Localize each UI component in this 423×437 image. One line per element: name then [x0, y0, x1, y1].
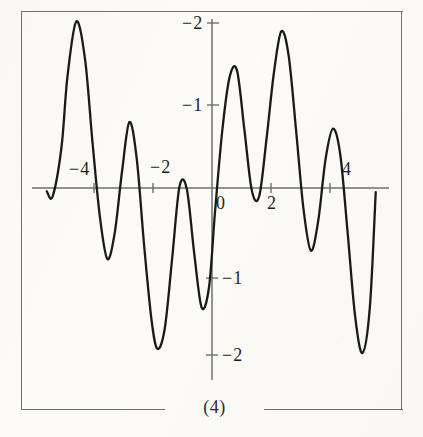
- y-axis-label-2: 2: [182, 14, 202, 32]
- y-axis-label--2: 2: [222, 346, 242, 364]
- y-axis-label-1: 1: [182, 96, 202, 114]
- y-axis-label--1: 1: [222, 269, 242, 287]
- x-axis-label-4: 4: [342, 160, 351, 178]
- x-axis-label--2: 2: [150, 158, 170, 176]
- x-axis-label-2: 2: [267, 194, 276, 212]
- x-axis-label--4: 4: [69, 160, 89, 178]
- figure-page: (4) 4 2 0 2 4 2 1 1 2: [0, 0, 423, 437]
- x-axis-label-0: 0: [216, 194, 225, 212]
- plot-canvas: [0, 0, 423, 437]
